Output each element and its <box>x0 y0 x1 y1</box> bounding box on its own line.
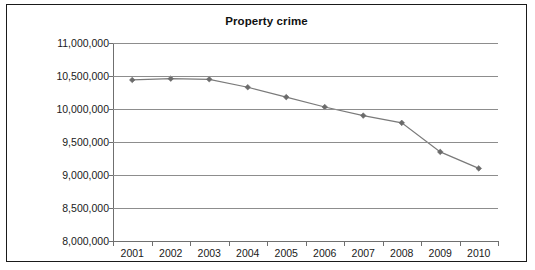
x-axis-tick-label: 2005 <box>275 247 298 259</box>
plot-area <box>113 43 498 241</box>
y-axis-tick-label: 9,000,000 <box>17 169 109 181</box>
series-line <box>132 79 479 169</box>
gridline <box>113 76 498 77</box>
gridline <box>113 175 498 176</box>
chart-figure-frame: Property crime 8,000,0008,500,0009,000,0… <box>6 4 527 262</box>
gridline <box>113 142 498 143</box>
data-point-marker <box>129 77 135 83</box>
y-axis-tick-label: 10,500,000 <box>17 70 109 82</box>
y-axis-tick-label: 11,000,000 <box>17 37 109 49</box>
chart-title: Property crime <box>7 15 526 27</box>
x-axis-tick-label: 2004 <box>236 247 259 259</box>
x-axis-tick-label: 2003 <box>198 247 221 259</box>
x-axis-tick-label: 2001 <box>121 247 144 259</box>
x-axis-tick-label: 2002 <box>159 247 182 259</box>
y-axis-tick-label: 9,500,000 <box>17 136 109 148</box>
y-axis-tick-label: 8,000,000 <box>17 235 109 247</box>
y-axis-tick-labels: 8,000,0008,500,0009,000,0009,500,00010,0… <box>13 43 109 241</box>
data-point-marker <box>476 166 482 172</box>
gridline <box>113 208 498 209</box>
y-axis-tick-label: 10,000,000 <box>17 103 109 115</box>
data-point-marker <box>283 94 289 100</box>
x-axis-line <box>113 241 498 242</box>
x-axis-tick-label: 2006 <box>313 247 336 259</box>
x-axis-tick-label: 2009 <box>429 247 452 259</box>
x-axis-tick-label: 2008 <box>390 247 413 259</box>
data-point-marker <box>245 84 251 90</box>
x-axis-tick-label: 2010 <box>467 247 490 259</box>
x-axis-tick-labels: 2001200220032004200520062007200820092010 <box>113 247 498 263</box>
gridline <box>113 109 498 110</box>
x-axis-tick-label: 2007 <box>352 247 375 259</box>
chart-canvas: Property crime 8,000,0008,500,0009,000,0… <box>7 5 526 261</box>
data-point-marker <box>206 77 212 83</box>
x-axis-tick-mark <box>498 241 499 246</box>
data-point-marker <box>360 113 366 119</box>
gridline <box>113 43 498 44</box>
y-axis-tick-label: 8,500,000 <box>17 202 109 214</box>
